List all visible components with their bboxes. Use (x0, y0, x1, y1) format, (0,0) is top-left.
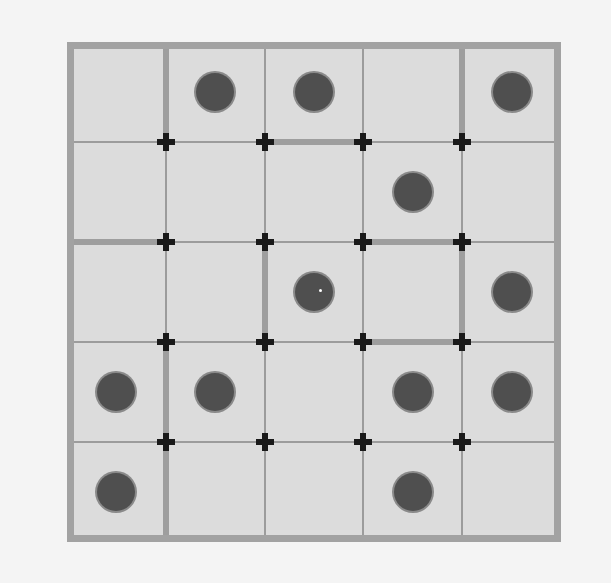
cross-icon[interactable] (453, 133, 471, 151)
cross-icon[interactable] (453, 333, 471, 351)
wall-segment-horizontal[interactable] (363, 239, 462, 245)
board-border (67, 535, 561, 542)
cross-icon[interactable] (157, 133, 175, 151)
cross-icon[interactable] (256, 433, 274, 451)
wall-segment-vertical[interactable] (459, 242, 465, 342)
grid-cell[interactable] (166, 242, 265, 342)
grid-line-horizontal (67, 441, 561, 443)
grid-cell[interactable] (462, 142, 561, 242)
grid-cell[interactable] (67, 242, 166, 342)
game-stage (0, 0, 611, 583)
wall-segment-vertical[interactable] (163, 342, 169, 442)
dot-marker[interactable] (295, 73, 333, 111)
cross-icon[interactable] (354, 433, 372, 451)
wall-segment-vertical[interactable] (262, 242, 268, 342)
cross-icon[interactable] (354, 233, 372, 251)
wall-segment-horizontal[interactable] (363, 339, 462, 345)
wall-segment-horizontal[interactable] (265, 139, 364, 145)
grid-cell[interactable] (67, 142, 166, 242)
grid-cell[interactable] (265, 442, 364, 542)
cross-icon[interactable] (453, 433, 471, 451)
dot-marker[interactable] (97, 473, 135, 511)
dot-marker[interactable] (394, 373, 432, 411)
grid-cell[interactable] (67, 42, 166, 142)
dot-marker[interactable] (196, 73, 234, 111)
wall-segment-horizontal[interactable] (67, 239, 166, 245)
grid-line-vertical (362, 42, 364, 542)
wall-segment-vertical[interactable] (163, 42, 169, 142)
dot-marker[interactable] (493, 73, 531, 111)
cross-icon[interactable] (157, 433, 175, 451)
grid-cell[interactable] (166, 142, 265, 242)
wall-segment-vertical[interactable] (163, 442, 169, 542)
cross-icon[interactable] (157, 333, 175, 351)
wall-segment-vertical[interactable] (459, 42, 465, 142)
grid-cell[interactable] (363, 242, 462, 342)
puzzle-board[interactable] (67, 42, 561, 542)
cross-icon[interactable] (157, 233, 175, 251)
grid-cell[interactable] (363, 42, 462, 142)
grid-cell[interactable] (166, 442, 265, 542)
cross-icon[interactable] (256, 133, 274, 151)
dot-marker[interactable] (493, 273, 531, 311)
grid-line-horizontal (67, 341, 561, 343)
dot-marker[interactable] (394, 173, 432, 211)
grid-cell[interactable] (265, 342, 364, 442)
dot-highlight (319, 289, 322, 292)
dot-marker[interactable] (196, 373, 234, 411)
dot-marker[interactable] (295, 273, 333, 311)
dot-marker[interactable] (493, 373, 531, 411)
cross-icon[interactable] (256, 333, 274, 351)
cross-icon[interactable] (354, 133, 372, 151)
grid-cell[interactable] (462, 442, 561, 542)
cross-icon[interactable] (354, 333, 372, 351)
dot-marker[interactable] (97, 373, 135, 411)
board-border (554, 42, 561, 542)
dot-marker[interactable] (394, 473, 432, 511)
cross-icon[interactable] (256, 233, 274, 251)
board-border (67, 42, 561, 49)
cross-icon[interactable] (453, 233, 471, 251)
grid-cell[interactable] (265, 142, 364, 242)
board-border (67, 42, 74, 542)
